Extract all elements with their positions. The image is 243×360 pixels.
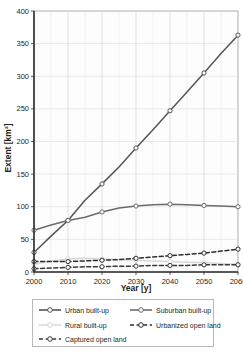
legend-item-suburban-built-up[interactable]: Suburban built-up xyxy=(129,304,211,316)
x-axis-title: Year [y] xyxy=(121,283,152,293)
legend-label-urbanized-open-land: Urbanized open land xyxy=(156,321,221,330)
y-axis-title: Extent [km²] xyxy=(3,123,13,172)
legend-item-captured-open-land[interactable]: Captured open land xyxy=(38,333,127,345)
y-tick-label: 200 xyxy=(16,137,29,146)
x-tick-label: 2040 xyxy=(162,277,179,286)
x-tick-label: 2000 xyxy=(26,277,43,286)
legend-swatch-urbanized-open-land xyxy=(129,320,153,330)
legend-label-urban-built-up: Urban built-up xyxy=(65,306,109,315)
chart-plot-region: 0501001502002503003504002000201020202030… xyxy=(0,0,243,296)
chart-legend: Urban built-up Suburban built-up Rural b… xyxy=(32,299,214,347)
y-tick-label: 250 xyxy=(16,104,29,113)
legend-item-rural-built-up[interactable]: Rural built-up xyxy=(38,319,107,331)
line-chart: 0501001502002503003504002000201020202030… xyxy=(0,0,243,296)
y-tick-label: 350 xyxy=(16,39,29,48)
legend-item-urbanized-open-land[interactable]: Urbanized open land xyxy=(129,319,221,331)
y-tick-label: 150 xyxy=(16,170,29,179)
legend-swatch-captured-open-land xyxy=(38,334,62,344)
legend-grid: Urban built-up Suburban built-up Rural b… xyxy=(33,300,213,346)
x-tick-label: 2050 xyxy=(196,277,213,286)
legend-swatch-urban-built-up xyxy=(38,305,62,315)
y-tick-label: 300 xyxy=(16,72,29,81)
y-tick-label: 100 xyxy=(16,202,29,211)
legend-swatch-suburban-built-up xyxy=(129,305,153,315)
legend-label-captured-open-land: Captured open land xyxy=(65,335,127,344)
y-tick-label: 400 xyxy=(16,7,29,16)
legend-item-urban-built-up[interactable]: Urban built-up xyxy=(38,304,109,316)
x-tick-label: 2010 xyxy=(60,277,77,286)
x-tick-label: 2020 xyxy=(94,277,111,286)
y-tick-label: 50 xyxy=(21,235,29,244)
legend-label-suburban-built-up: Suburban built-up xyxy=(156,306,211,315)
x-tick-label: 2060 xyxy=(230,277,243,286)
y-tick-label: 0 xyxy=(25,268,29,277)
figure-container: 0501001502002503003504002000201020202030… xyxy=(0,0,243,360)
legend-label-rural-built-up: Rural built-up xyxy=(65,321,107,330)
legend-swatch-rural-built-up xyxy=(38,320,62,330)
